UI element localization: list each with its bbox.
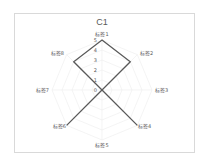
category-label: 标签3 bbox=[155, 87, 168, 94]
tick-label: 4 bbox=[94, 47, 97, 53]
radar-chart: C1 0 1 2 3 4 5 标签1 标签2 标签3 标签4 标签5 标签6 标… bbox=[0, 0, 208, 162]
tick-label: 5 bbox=[94, 37, 97, 43]
category-label: 标签2 bbox=[140, 50, 153, 57]
tick-label: 2 bbox=[94, 67, 97, 73]
category-label: 标签7 bbox=[36, 87, 49, 94]
category-label: 标签8 bbox=[51, 50, 64, 57]
tick-label: 0 bbox=[94, 87, 97, 93]
category-label: 标签5 bbox=[95, 142, 108, 149]
category-label: 标签4 bbox=[138, 123, 151, 130]
tick-label: 3 bbox=[94, 57, 97, 63]
category-label: 标签1 bbox=[95, 31, 108, 38]
chart-title: C1 bbox=[96, 17, 108, 27]
category-label: 标签6 bbox=[53, 123, 66, 130]
